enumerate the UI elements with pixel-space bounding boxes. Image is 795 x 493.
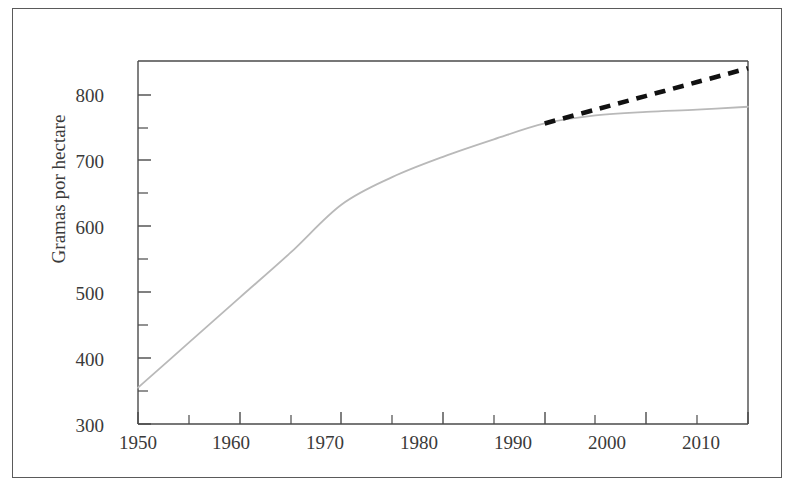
x-axis-major-ticks bbox=[138, 412, 748, 424]
plot-svg bbox=[0, 0, 795, 493]
axis-frame bbox=[138, 61, 748, 424]
series-line-historical bbox=[138, 107, 748, 388]
series-line-projection bbox=[545, 68, 748, 123]
chart-area: Gramas por hectare 800 700 600 500 400 3… bbox=[0, 0, 795, 493]
y-axis-minor-ticks bbox=[138, 128, 148, 391]
